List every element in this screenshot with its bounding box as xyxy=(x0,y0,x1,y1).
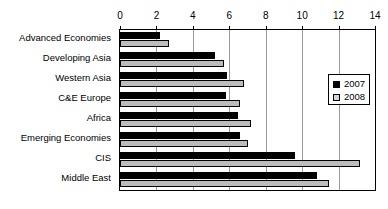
legend: 2007 2008 xyxy=(328,74,370,105)
bar-group xyxy=(120,30,375,50)
bar-2007 xyxy=(120,52,215,59)
bar-2007 xyxy=(120,172,317,179)
gray-square-icon xyxy=(333,94,340,101)
legend-label: 2007 xyxy=(344,79,365,89)
bar-2008 xyxy=(120,100,240,107)
category-label: Africa xyxy=(0,112,111,123)
bar-2008 xyxy=(120,80,244,87)
bar-2007 xyxy=(120,32,160,39)
category-label: Developing Asia xyxy=(0,52,111,63)
tick-label: 8 xyxy=(254,10,278,21)
bar-2007 xyxy=(120,72,227,79)
bar-2007 xyxy=(120,152,295,159)
bar-2007 xyxy=(120,132,240,139)
bar-chart: Advanced Economies Developing Asia Weste… xyxy=(0,0,388,209)
category-label: Middle East xyxy=(0,172,111,183)
bar-group xyxy=(120,130,375,150)
tick-label: 4 xyxy=(181,10,205,21)
legend-item-2008: 2008 xyxy=(333,91,366,103)
bar-2008 xyxy=(120,140,248,147)
bar-group xyxy=(120,170,375,190)
tick-label: 10 xyxy=(290,10,314,21)
bar-2008 xyxy=(120,160,360,167)
legend-label: 2008 xyxy=(344,92,365,102)
bar-2008 xyxy=(120,120,251,127)
category-label: C&E Europe xyxy=(0,92,111,103)
tick-mark xyxy=(375,26,376,30)
black-square-icon xyxy=(333,81,340,88)
tick-label: 14 xyxy=(363,10,387,21)
bar-group xyxy=(120,110,375,130)
bar-2008 xyxy=(120,180,329,187)
category-label: Western Asia xyxy=(0,72,111,83)
bar-group xyxy=(120,50,375,70)
category-axis-labels: Advanced Economies Developing Asia Weste… xyxy=(0,29,115,189)
plot-area: 02468101214 xyxy=(119,29,376,191)
category-label: CIS xyxy=(0,152,111,163)
bar-2008 xyxy=(120,60,224,67)
legend-item-2007: 2007 xyxy=(333,78,366,90)
tick-label: 0 xyxy=(108,10,132,21)
bar-2008 xyxy=(120,40,169,47)
bar-2007 xyxy=(120,112,238,119)
bar-group xyxy=(120,150,375,170)
tick-label: 12 xyxy=(327,10,351,21)
category-label: Advanced Economies xyxy=(0,32,111,43)
tick-label: 2 xyxy=(144,10,168,21)
bar-2007 xyxy=(120,92,226,99)
category-label: Emerging Economies xyxy=(0,132,111,143)
tick-label: 6 xyxy=(217,10,241,21)
